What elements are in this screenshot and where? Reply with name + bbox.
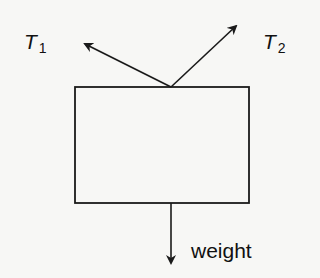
weight-label: weight: [191, 240, 252, 261]
t1-arrow: [85, 44, 171, 87]
body-box: [75, 87, 249, 203]
t2-subscript: 2: [278, 40, 286, 56]
t1-symbol: T: [24, 30, 37, 53]
t1-label: T1: [24, 31, 47, 55]
t2-symbol: T: [263, 30, 276, 53]
t2-arrow: [171, 26, 236, 87]
t2-label: T2: [263, 31, 286, 55]
t1-subscript: 1: [39, 40, 47, 56]
